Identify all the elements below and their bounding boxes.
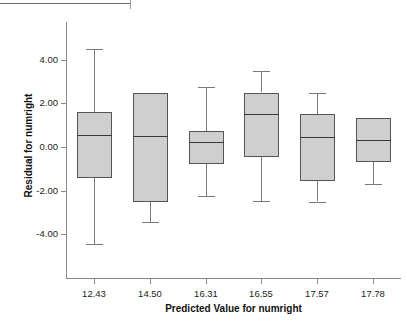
lower-whisker-cap (86, 244, 103, 245)
median-line (300, 137, 335, 138)
page-rule-artifact (0, 3, 131, 4)
box-iqr (300, 114, 335, 180)
upper-whisker (94, 49, 95, 112)
upper-whisker (261, 71, 262, 93)
y-axis-tick (61, 147, 67, 148)
x-axis-tick-label: 17.78 (348, 288, 398, 299)
y-axis-tick-label: 4.00 (18, 55, 58, 65)
x-axis-tick (206, 278, 207, 284)
x-axis-tick-label: 14.50 (125, 288, 175, 299)
y-axis-title: Residual for numright (23, 66, 34, 226)
y-axis-tick (61, 103, 67, 104)
upper-whisker-cap (253, 71, 270, 72)
x-axis-title: Predicted Value for numright (66, 303, 401, 314)
lower-whisker-cap (365, 184, 382, 185)
boxplot-chart: 4.002.000.00-2.00-4.00 12.4314.5016.3116… (0, 0, 407, 331)
lower-whisker-cap (198, 196, 215, 197)
upper-whisker-cap (86, 49, 103, 50)
x-axis-tick (373, 278, 374, 284)
lower-whisker (261, 157, 262, 201)
y-axis-tick-label: -4.00 (18, 229, 58, 239)
lower-whisker (94, 178, 95, 244)
y-axis-tick (61, 234, 67, 235)
median-line (356, 140, 391, 141)
x-axis-line (66, 278, 401, 279)
median-line (244, 114, 279, 115)
box-iqr (189, 131, 224, 164)
median-line (189, 142, 224, 143)
x-axis-tick (150, 278, 151, 284)
median-line (133, 136, 168, 137)
lower-whisker (373, 162, 374, 185)
lower-whisker (206, 164, 207, 196)
y-axis-tick (61, 60, 67, 61)
box-iqr (244, 93, 279, 158)
box-iqr (133, 93, 168, 202)
x-axis-tick-label: 12.43 (69, 288, 119, 299)
upper-whisker (206, 87, 207, 131)
upper-whisker (317, 93, 318, 115)
x-axis-tick (94, 278, 95, 284)
lower-whisker-cap (309, 202, 326, 203)
lower-whisker-cap (253, 201, 270, 202)
x-axis-tick-label: 16.31 (181, 288, 231, 299)
page-rule-tick-artifact (130, 0, 131, 9)
x-axis-tick (317, 278, 318, 284)
median-line (77, 135, 112, 136)
lower-whisker-cap (142, 222, 159, 223)
upper-whisker-cap (309, 93, 326, 94)
upper-whisker-cap (198, 87, 215, 88)
y-axis-tick (61, 191, 67, 192)
x-axis-tick-label: 17.57 (292, 288, 342, 299)
x-axis-tick (261, 278, 262, 284)
lower-whisker (150, 202, 151, 223)
box-iqr (77, 112, 112, 177)
lower-whisker (317, 181, 318, 202)
x-axis-tick-label: 16.55 (236, 288, 286, 299)
